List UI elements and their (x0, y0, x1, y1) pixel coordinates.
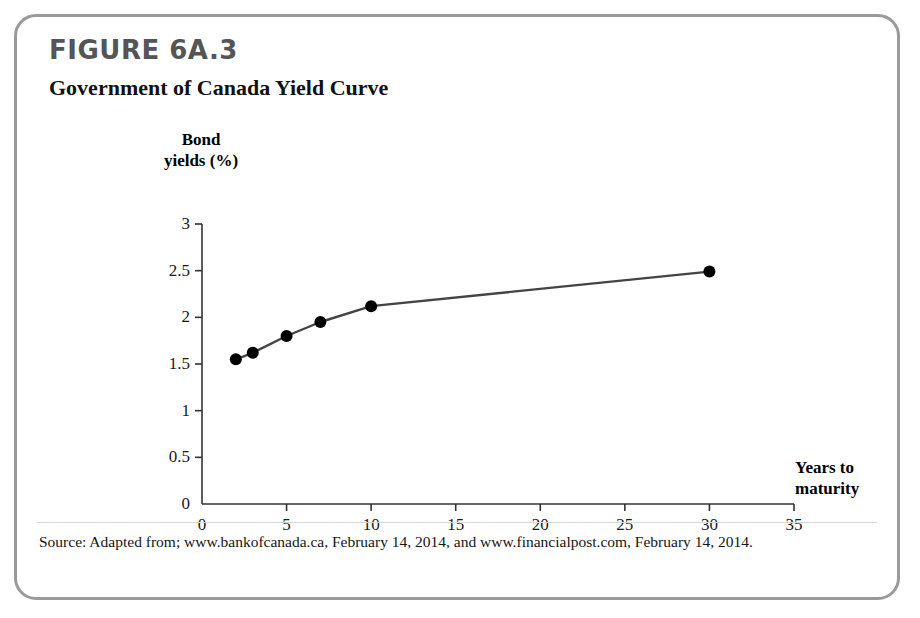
y-tick-label: 2.5 (146, 261, 190, 281)
chart-axes (195, 224, 794, 511)
y-tick-label: 0.5 (146, 447, 190, 467)
y-tick-label: 3 (146, 214, 190, 234)
x-tick-label: 30 (689, 515, 729, 535)
x-tick-label: 20 (520, 515, 560, 535)
figure-card: FIGURE 6A.3 Government of Canada Yield C… (14, 14, 900, 600)
chart-plot-area: Bondyields (%) Years tomaturity 00.511.5… (17, 17, 903, 537)
x-tick-label: 5 (267, 515, 307, 535)
x-tick-label: 25 (605, 515, 645, 535)
x-tick-label: 0 (182, 515, 222, 535)
source-note: Source: Adapted from; www.bankofcanada.c… (39, 533, 753, 551)
chart-series (230, 266, 716, 366)
x-tick-label: 35 (774, 515, 814, 535)
y-tick-label: 1 (146, 401, 190, 421)
x-tick-label: 10 (351, 515, 391, 535)
y-tick-label: 0 (146, 494, 190, 514)
x-tick-label: 15 (436, 515, 476, 535)
y-tick-label: 2 (146, 307, 190, 327)
source-divider (37, 522, 877, 523)
y-tick-label: 1.5 (146, 354, 190, 374)
